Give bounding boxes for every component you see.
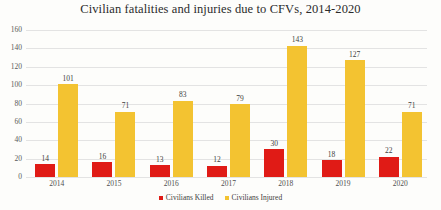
bar-value-label: 71 (110, 102, 140, 110)
plot-area: 1410116711383127930143181272271 (26, 30, 427, 177)
legend-swatch-icon (225, 196, 230, 201)
x-axis-tick-label: 2016 (148, 180, 194, 188)
bar-value-label: 14 (30, 155, 60, 163)
y-axis-tick-label: 80 (1, 100, 22, 108)
bar-group: 1279 (207, 30, 250, 177)
bar-injured[interactable] (58, 84, 78, 177)
bar-value-label: 18 (317, 151, 347, 159)
bar-value-label: 22 (374, 147, 404, 155)
bar-killed[interactable] (379, 157, 399, 177)
bar-value-label: 83 (168, 91, 198, 99)
legend-swatch-icon (159, 196, 164, 201)
bar-injured[interactable] (230, 104, 250, 177)
bar-value-label: 127 (340, 51, 370, 59)
legend-item[interactable]: Civilians Killed (159, 194, 214, 202)
y-axis-tick-label: 120 (1, 63, 22, 71)
bar-chart-figure: Civilian fatalities and injuries due to … (0, 0, 441, 210)
bar-group: 1383 (150, 30, 193, 177)
bar-killed[interactable] (35, 164, 55, 177)
y-axis-tick-label: 160 (1, 26, 22, 34)
bar-killed[interactable] (150, 165, 170, 177)
legend-label: Civilians Injured (232, 194, 283, 202)
x-axis-tick-label: 2014 (34, 180, 80, 188)
x-axis-tick-label: 2020 (377, 180, 423, 188)
bar-killed[interactable] (207, 166, 227, 177)
x-axis-tick-label: 2018 (263, 180, 309, 188)
y-axis-tick-label: 40 (1, 136, 22, 144)
bar-injured[interactable] (287, 46, 307, 177)
y-axis-tick-label: 100 (1, 81, 22, 89)
bar-group: 1671 (92, 30, 135, 177)
bar-killed[interactable] (264, 149, 284, 177)
bar-value-label: 143 (282, 36, 312, 44)
bar-killed[interactable] (92, 162, 112, 177)
x-axis-tick-label: 2019 (320, 180, 366, 188)
bar-group: 14101 (35, 30, 78, 177)
bar-injured[interactable] (115, 112, 135, 177)
bar-group: 30143 (264, 30, 307, 177)
bar-value-label: 16 (87, 153, 117, 161)
bar-group: 18127 (322, 30, 365, 177)
bar-value-label: 71 (397, 102, 427, 110)
bar-injured[interactable] (345, 60, 365, 177)
bar-value-label: 30 (259, 140, 289, 148)
legend-label: Civilians Killed (166, 194, 214, 202)
chart-legend: Civilians KilledCivilians Injured (0, 194, 441, 202)
y-axis-tick-label: 140 (1, 44, 22, 52)
y-axis-tick-label: 0 (1, 173, 22, 181)
y-axis-tick-label: 60 (1, 118, 22, 126)
bar-injured[interactable] (402, 112, 422, 177)
legend-item[interactable]: Civilians Injured (225, 194, 283, 202)
bar-value-label: 79 (225, 95, 255, 103)
bar-value-label: 13 (145, 156, 175, 164)
y-axis-tick-label: 20 (1, 155, 22, 163)
bar-killed[interactable] (322, 160, 342, 177)
bar-value-label: 101 (53, 75, 83, 83)
gridline (26, 177, 427, 178)
x-axis-tick-label: 2017 (206, 180, 252, 188)
bar-injured[interactable] (173, 101, 193, 177)
bar-group: 2271 (379, 30, 422, 177)
bar-value-label: 12 (202, 156, 232, 164)
x-axis-tick-label: 2015 (91, 180, 137, 188)
